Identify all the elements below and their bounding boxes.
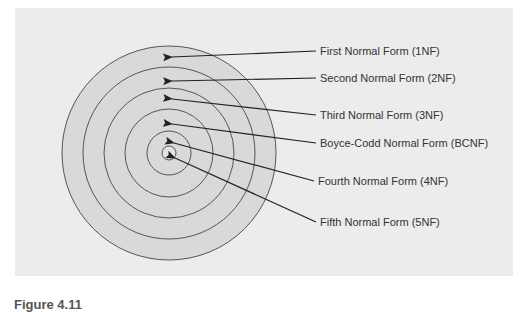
label-3nf: Third Normal Form (3NF) bbox=[320, 109, 443, 121]
label-2nf: Second Normal Form (2NF) bbox=[320, 72, 456, 84]
label-bcnf: Boyce-Codd Normal Form (BCNF) bbox=[320, 137, 488, 149]
label-4nf: Fourth Normal Form (4NF) bbox=[318, 175, 448, 187]
figure-caption: Figure 4.11 bbox=[14, 297, 82, 312]
label-5nf: Fifth Normal Form (5NF) bbox=[320, 216, 440, 228]
ring-6 bbox=[162, 146, 176, 160]
label-1nf: First Normal Form (1NF) bbox=[320, 45, 440, 57]
